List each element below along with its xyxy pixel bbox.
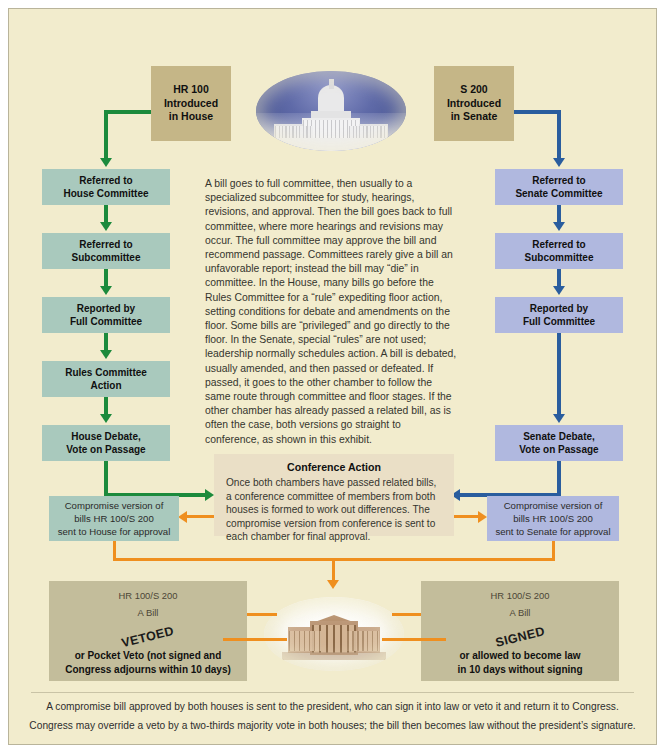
conference-to-senate-line <box>454 515 480 518</box>
house-connector-arrow <box>100 158 112 167</box>
s200-line-3: in Senate <box>451 110 498 124</box>
box-conference-action: Conference Action Once both chambers hav… <box>214 454 454 536</box>
signed-bill-label: A Bill <box>510 607 531 618</box>
hr100-line-2: Introduced <box>164 97 218 111</box>
caption-line-2: Congress may override a veto by a two-th… <box>9 716 656 735</box>
box-vetoed-outcome: HR 100/S 200 A Bill VETOED or Pocket Vet… <box>49 581 247 681</box>
hr100-line-1: HR 100 <box>173 83 209 97</box>
conference-to-house-line <box>187 515 214 518</box>
house-step-3-line-1: Action <box>90 379 121 393</box>
house-connector-v <box>104 110 108 160</box>
white-house-photo <box>264 597 404 671</box>
outcome-bus-left <box>247 613 277 616</box>
house-step-1-line-0: Referred to <box>79 238 132 252</box>
senate-to-conference-v <box>557 461 561 497</box>
house-step-0-line-1: House Committee <box>63 187 148 201</box>
box-referred-senate-committee: Referred to Senate Committee <box>495 169 623 205</box>
diagram-page: HR 100 Introduced in House S 200 Introdu… <box>0 0 665 753</box>
signed-stamp: SIGNED <box>494 624 546 650</box>
compromise-house-line-0: Compromise version of <box>65 499 164 512</box>
box-compromise-house: Compromise version of bills HR 100/S 200… <box>49 496 179 541</box>
signed-line-0: or allowed to become law <box>459 649 580 663</box>
vetoed-stamp: VETOED <box>120 624 175 651</box>
caption-divider <box>31 692 634 693</box>
senate-step-2-line-0: Reported by <box>530 302 588 316</box>
outcome-bus-under-right <box>382 638 446 641</box>
box-hr100-introduced: HR 100 Introduced in House <box>151 66 231 141</box>
veto-line-1: Congress adjourns within 10 days) <box>65 663 231 677</box>
senate-step-1-line-1: Subcommittee <box>525 251 594 265</box>
senate-arrow-head-3 <box>553 414 565 423</box>
center-explanatory-text: A bill goes to full committee, then usua… <box>205 177 457 447</box>
house-step-3-line-0: Rules Committee <box>65 366 147 380</box>
president-bus-arrow <box>327 580 339 589</box>
house-step-1-line-1: Subcommittee <box>72 251 141 265</box>
box-senate-debate-vote: Senate Debate, Vote on Passage <box>495 425 623 461</box>
senate-step-3-line-1: Vote on Passage <box>519 443 598 457</box>
senate-step-2-line-1: Full Committee <box>523 315 595 329</box>
signed-bill-id: HR 100/S 200 <box>491 590 550 601</box>
house-step-4-line-0: House Debate, <box>71 430 140 444</box>
veto-bill-label: A Bill <box>138 607 159 618</box>
senate-arrow-head-1 <box>553 222 565 231</box>
conference-action-title: Conference Action <box>226 461 442 473</box>
house-to-conference-v <box>104 461 108 497</box>
box-compromise-senate: Compromise version of bills HR 100/S 200… <box>487 496 619 541</box>
house-to-conference-arrow <box>205 489 214 501</box>
us-capitol-photo <box>256 71 406 151</box>
senate-step-0-line-0: Referred to <box>532 174 585 188</box>
senate-step-0-line-1: Senate Committee <box>515 187 602 201</box>
compromise-house-line-2: sent to House for approval <box>58 525 171 538</box>
compromise-senate-line-2: sent to Senate for approval <box>495 525 610 538</box>
senate-arrow-head-2 <box>553 286 565 295</box>
box-reported-full-committee-house: Reported by Full Committee <box>42 297 170 333</box>
outcome-bus-under-left <box>223 638 287 641</box>
diagram-canvas: HR 100 Introduced in House S 200 Introdu… <box>8 8 657 745</box>
house-arrow-head-4 <box>100 414 112 423</box>
senate-step-3-line-0: Senate Debate, <box>523 430 595 444</box>
senate-step-1-line-0: Referred to <box>532 238 585 252</box>
outcome-bus-right <box>392 613 421 616</box>
house-arrow-head-3 <box>100 350 112 359</box>
veto-line-0: or Pocket Veto (not signed and <box>75 649 222 663</box>
conference-action-text: Once both chambers have passed related b… <box>226 476 442 544</box>
house-arrow-head-1 <box>100 222 112 231</box>
box-referred-house-committee: Referred to House Committee <box>42 169 170 205</box>
caption-line-1: A compromise bill approved by both house… <box>9 697 656 716</box>
s200-line-2: Introduced <box>447 97 501 111</box>
box-referred-subcommittee-house: Referred to Subcommittee <box>42 233 170 269</box>
senate-arrow-line-3 <box>557 333 561 416</box>
house-step-2-line-0: Reported by <box>77 302 135 316</box>
compromise-senate-line-1: bills HR 100/S 200 <box>513 512 592 525</box>
box-reported-full-committee-senate: Reported by Full Committee <box>495 297 623 333</box>
s200-line-1: S 200 <box>460 83 487 97</box>
house-connector-h <box>104 110 151 114</box>
veto-bill-id: HR 100/S 200 <box>119 590 178 601</box>
box-signed-outcome: HR 100/S 200 A Bill SIGNED or allowed to… <box>421 581 619 681</box>
senate-connector-h <box>514 110 561 114</box>
house-arrow-head-2 <box>100 286 112 295</box>
hr100-line-3: in House <box>169 110 213 124</box>
conference-to-house-arrow <box>178 511 187 523</box>
senate-connector-v <box>557 110 561 160</box>
house-step-4-line-1: Vote on Passage <box>66 443 145 457</box>
box-house-debate-vote: House Debate, Vote on Passage <box>42 425 170 461</box>
house-step-2-line-1: Full Committee <box>70 315 142 329</box>
compromise-senate-line-0: Compromise version of <box>504 499 603 512</box>
box-rules-committee-action: Rules Committee Action <box>42 361 170 397</box>
senate-connector-arrow <box>553 158 565 167</box>
box-s200-introduced: S 200 Introduced in Senate <box>434 66 514 141</box>
compromise-house-line-1: bills HR 100/S 200 <box>74 512 153 525</box>
signed-line-1: in 10 days without signing <box>457 663 582 677</box>
box-referred-subcommittee-senate: Referred to Subcommittee <box>495 233 623 269</box>
house-step-0-line-0: Referred to <box>79 174 132 188</box>
conference-to-senate-arrow <box>478 511 487 523</box>
